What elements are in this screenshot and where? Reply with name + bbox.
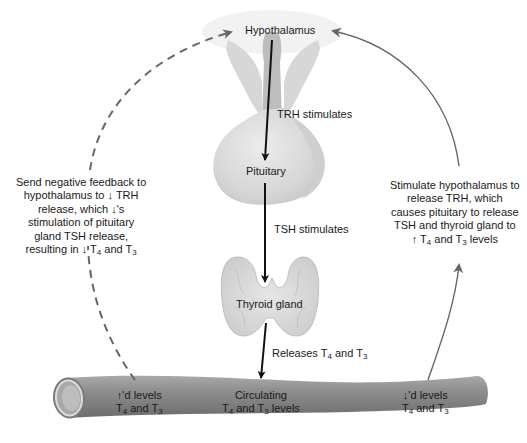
increased-levels-label: ↑'d levels T4 and T3: [116, 389, 163, 416]
decreased-levels-label: ↓'d levels T4 and T3: [402, 389, 449, 416]
pituitary-graphic: [213, 108, 325, 205]
negative-feedback-arrow: [90, 32, 231, 170]
thyroid-feedback-diagram: Hypothalamus Pituitary Thyroid gland TRH…: [0, 0, 527, 443]
hypothalamus-label: Hypothalamus: [245, 24, 315, 37]
thyroid-label: Thyroid gland: [236, 298, 303, 311]
positive-feedback-arrow-upper: [333, 31, 459, 166]
thyroid-graphic: [221, 257, 318, 336]
pituitary-label: Pituitary: [246, 165, 286, 178]
positive-stimulation-text: Stimulate hypothalamus to release TRH, w…: [390, 179, 520, 246]
negative-feedback-text: Send negative feedback to hypothalamus t…: [16, 176, 146, 256]
positive-feedback-arrow-lower: [428, 265, 459, 380]
trh-stimulates-label: TRH stimulates: [277, 108, 352, 121]
release-arrow: [261, 323, 266, 378]
circulating-levels-label: Circulating T4 and T3 levels: [222, 389, 300, 416]
negative-feedback-line-lower: [88, 246, 135, 380]
tsh-stimulates-label: TSH stimulates: [274, 223, 349, 236]
releases-t4-t3-label: Releases T4 and T3: [272, 347, 367, 360]
